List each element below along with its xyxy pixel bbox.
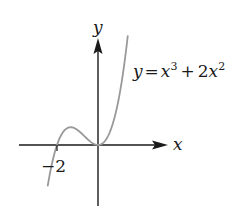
eq-t2-exp: 2 <box>218 60 225 73</box>
eq-equals: = <box>145 61 159 81</box>
eq-t2-base: x <box>209 61 219 81</box>
y-axis-label: y <box>92 17 103 37</box>
eq-t1-base: x <box>161 61 171 81</box>
eq-t2-coef: 2 <box>198 61 209 81</box>
x-tick-label-minus-2: −2 <box>41 156 66 176</box>
x-axis-label: x <box>173 134 183 154</box>
equation-label: y=x3+2x2 <box>132 60 225 81</box>
cubic-function-plot: y x −2 y=x3+2x2 <box>0 0 233 206</box>
eq-plus: + <box>180 61 194 81</box>
eq-lhs: y <box>132 61 143 81</box>
eq-t1-exp: 3 <box>170 60 177 73</box>
